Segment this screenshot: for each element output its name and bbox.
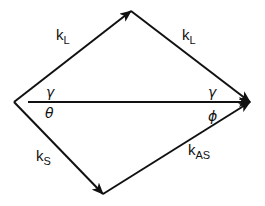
phase-matching-diagram: kL kL kS kAS γ γ θ ϕ: [0, 0, 265, 206]
svg-text:kL: kL: [182, 26, 196, 46]
angle-theta: θ: [45, 105, 54, 121]
svg-text:kL: kL: [56, 26, 70, 46]
label-kAS: kAS: [188, 141, 210, 161]
angle-phi: ϕ: [208, 108, 217, 124]
vector-kAS: [103, 102, 250, 194]
label-kL-right: kL: [182, 26, 196, 46]
vector-kL-upper-left: [14, 11, 131, 102]
label-kS: kS: [36, 147, 51, 167]
label-kL-left: kL: [56, 26, 70, 46]
angle-gamma-left: γ: [46, 84, 55, 100]
svg-text:kS: kS: [36, 147, 51, 167]
svg-text:kAS: kAS: [188, 141, 210, 161]
angle-gamma-right: γ: [208, 84, 217, 100]
vector-kL-upper-right: [131, 11, 250, 102]
vector-kS: [14, 102, 103, 194]
